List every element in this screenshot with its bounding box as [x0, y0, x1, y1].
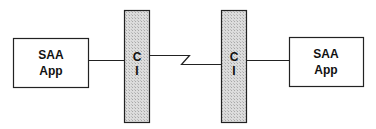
right-saa-app-box: SAA App [290, 38, 364, 87]
right-ci-label-line1: C [230, 50, 239, 64]
left-app-label-line2: App [39, 64, 62, 78]
left-ci-bar: C I [125, 11, 150, 123]
left-ci-label-line1: C [133, 50, 142, 64]
right-app-label-line2: App [314, 63, 337, 77]
right-ci-label-line2: I [232, 64, 235, 78]
left-ci-label-line2: I [135, 64, 138, 78]
diagram-canvas: SAA App C I C I SAA App [0, 0, 376, 129]
left-app-label-line1: SAA [38, 48, 64, 62]
right-app-label-line1: SAA [313, 47, 339, 61]
left-saa-app-box: SAA App [14, 39, 89, 88]
right-ci-bar: C I [222, 11, 247, 123]
communications-link-zigzag [150, 56, 222, 65]
